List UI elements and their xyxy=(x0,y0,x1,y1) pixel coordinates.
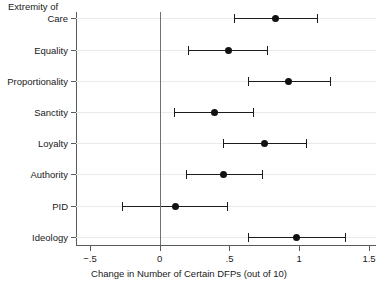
interval-cap-high xyxy=(253,108,254,117)
estimate-point xyxy=(225,47,232,54)
interval-cap-high xyxy=(306,139,307,148)
y-axis-label-care: Care xyxy=(47,13,68,24)
interval-cap-low xyxy=(188,46,189,55)
gridline xyxy=(76,81,376,82)
y-axis-label-pid: PID xyxy=(52,200,68,211)
y-axis-label-proportionality: Proportionality xyxy=(7,75,68,86)
interval-cap-low xyxy=(248,77,249,86)
estimate-point xyxy=(211,109,218,116)
plot-area: CareEqualityProportionalitySanctityLoyal… xyxy=(76,12,376,244)
estimate-point xyxy=(220,171,227,178)
y-axis-tick xyxy=(71,174,76,175)
gridline xyxy=(76,18,376,19)
y-axis-label-ideology: Ideology xyxy=(32,231,68,242)
y-axis-label-loyalty: Loyalty xyxy=(38,138,68,149)
x-axis-tick-label: .5 xyxy=(226,253,234,264)
interval-cap-high xyxy=(227,202,228,211)
y-axis-tick xyxy=(71,206,76,207)
y-axis-label-authority: Authority xyxy=(31,169,69,180)
interval-cap-low xyxy=(248,233,249,242)
interval-cap-high xyxy=(262,170,263,179)
y-axis-group-header: Extremity of xyxy=(8,1,58,12)
x-axis-tick xyxy=(160,246,161,251)
interval-cap-high xyxy=(267,46,268,55)
x-axis-tick-label: 1.5 xyxy=(362,253,375,264)
y-axis-tick xyxy=(71,112,76,113)
estimate-point xyxy=(272,15,279,22)
y-axis-label-equality: Equality xyxy=(34,44,68,55)
interval-cap-low xyxy=(186,170,187,179)
y-axis-tick xyxy=(71,50,76,51)
x-axis-tick xyxy=(299,246,300,251)
x-axis-tick xyxy=(369,246,370,251)
y-axis-tick xyxy=(71,18,76,19)
x-axis-line xyxy=(76,245,376,246)
interval-cap-high xyxy=(345,233,346,242)
x-axis-tick xyxy=(229,246,230,251)
y-axis-label-sanctity: Sanctity xyxy=(34,106,68,117)
coefficient-plot: Extremity of CareEqualityProportionality… xyxy=(0,0,378,290)
x-axis-tick-label: −.5 xyxy=(83,253,96,264)
y-axis-tick xyxy=(71,81,76,82)
y-axis-tick xyxy=(71,237,76,238)
estimate-point xyxy=(172,203,179,210)
interval-cap-low xyxy=(174,108,175,117)
x-axis-title: Change in Number of Certain DFPs (out of… xyxy=(0,268,378,279)
interval-cap-low xyxy=(122,202,123,211)
zero-reference-line xyxy=(160,12,161,245)
interval-cap-high xyxy=(330,77,331,86)
estimate-point xyxy=(293,234,300,241)
x-axis-tick xyxy=(90,246,91,251)
interval-cap-low xyxy=(223,139,224,148)
estimate-point xyxy=(285,78,292,85)
x-axis-tick-label: 0 xyxy=(157,253,162,264)
y-axis-tick xyxy=(71,143,76,144)
estimate-point xyxy=(261,140,268,147)
x-axis-tick-label: 1 xyxy=(297,253,302,264)
interval-cap-low xyxy=(234,14,235,23)
interval-cap-high xyxy=(317,14,318,23)
